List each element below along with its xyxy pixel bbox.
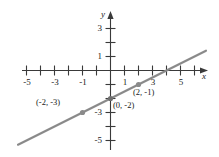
y-tick-label-1: 1 bbox=[86, 52, 102, 61]
x-tick-label-neg3: -3 bbox=[44, 78, 66, 87]
y-tick-label-3: 3 bbox=[86, 24, 102, 33]
graph-figure: x y -5 -3 -1 1 3 5 3 1 -3 -5 (-2, -3) (0… bbox=[0, 0, 219, 157]
point-annotation-0-neg2: (0, -2) bbox=[113, 101, 134, 110]
point-annotation-2-neg1: (2, -1) bbox=[133, 88, 154, 97]
x-tick-label-1: 1 bbox=[114, 78, 136, 87]
x-axis-label: x bbox=[202, 72, 206, 81]
y-tick-label-neg5: -5 bbox=[82, 136, 102, 145]
y-axis-label: y bbox=[101, 10, 105, 19]
x-axis bbox=[22, 66, 208, 76]
point-annotation-neg2-neg3: (-2, -3) bbox=[36, 98, 60, 107]
x-tick-label-5: 5 bbox=[170, 78, 192, 87]
x-tick-label-neg5: -5 bbox=[16, 78, 38, 87]
y-tick-label-neg3: -3 bbox=[82, 108, 102, 117]
y-axis-arrowhead bbox=[107, 11, 113, 19]
x-tick-label-3: 3 bbox=[142, 78, 164, 87]
x-tick-label-neg1: -1 bbox=[72, 78, 94, 87]
